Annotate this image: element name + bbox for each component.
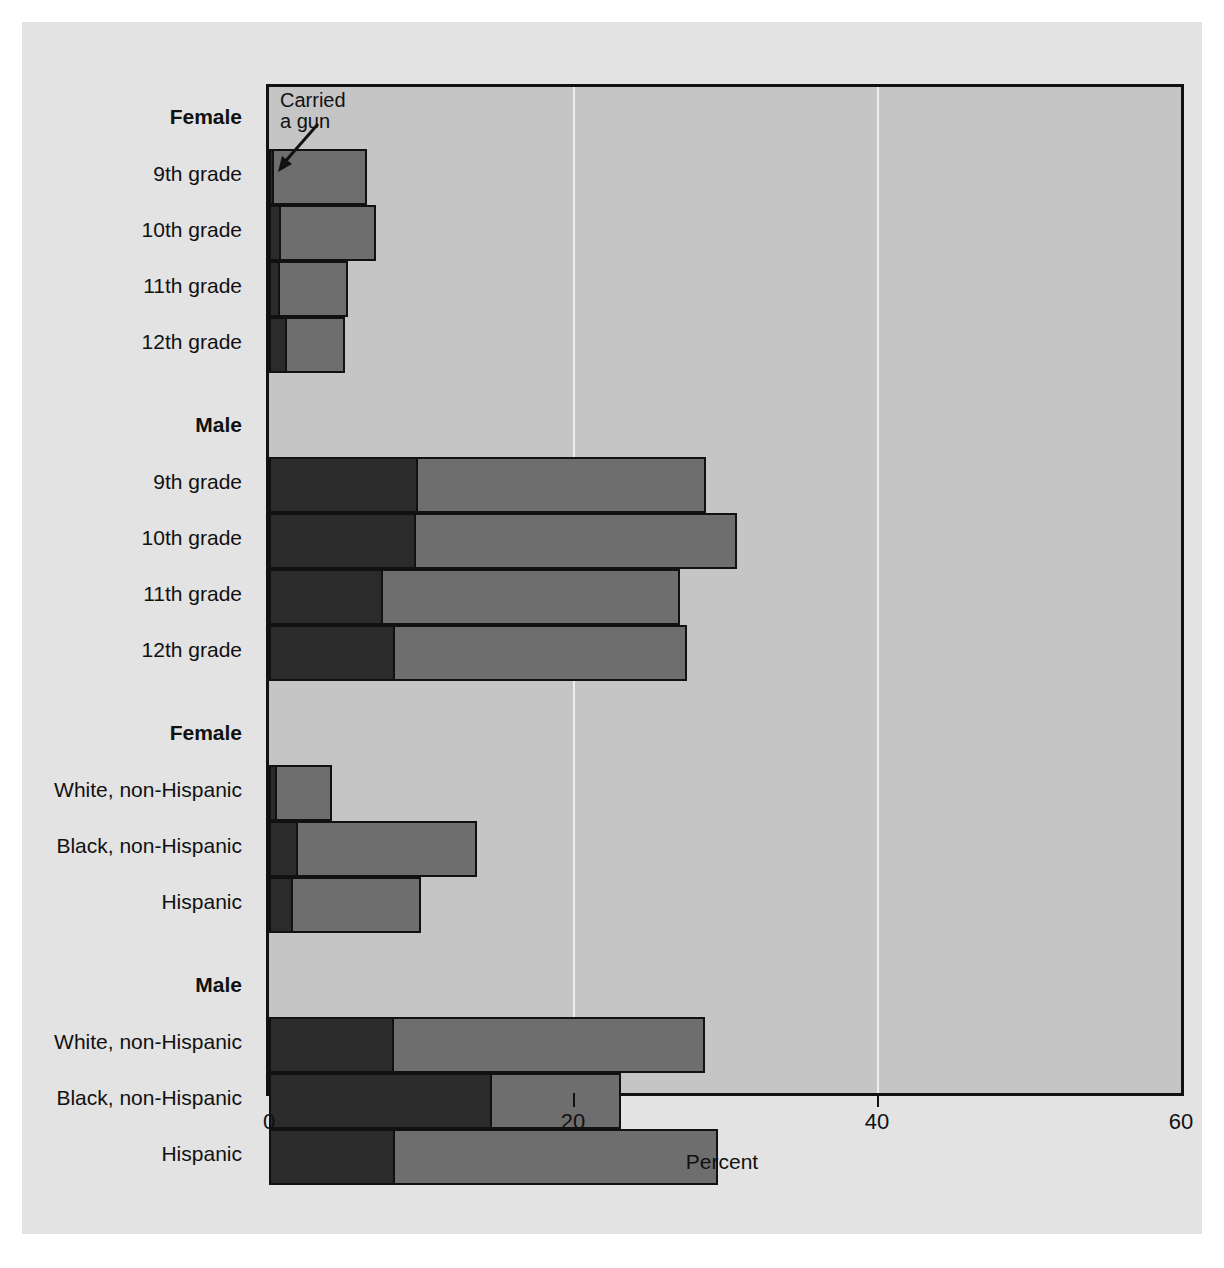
carried-a-gun-annotation-label: Carried a gun [280,90,430,132]
figure-container: Female9th grade10th grade11th grade12th … [0,0,1224,1268]
bar-segment-carried-weapon [275,765,333,821]
category-label: White, non-Hispanic [0,1030,242,1054]
bar-row[interactable] [269,765,332,821]
bar-segment-carried-weapon [393,625,686,681]
x-tick-label-60: 60 [1169,1109,1193,1135]
category-label: Black, non-Hispanic [0,834,242,858]
bar-segment-carried-weapon [272,149,368,205]
category-label-column: Female9th grade10th grade11th grade12th … [22,84,254,1090]
bar-segment-carried-gun [269,625,395,681]
category-label: 9th grade [0,470,242,494]
category-label: 11th grade [0,274,242,298]
bar-row[interactable] [269,513,737,569]
bar-segment-carried-gun [269,1017,394,1073]
x-axis-title: Percent [266,1150,1178,1174]
x-tick-40 [877,1093,879,1107]
bar-segment-carried-weapon [296,821,477,877]
bar-segment-carried-gun [269,877,293,933]
category-label: 12th grade [0,330,242,354]
bar-segment-carried-weapon [279,205,376,261]
group-heading-male-1: Male [0,413,242,437]
bar-row[interactable] [269,457,706,513]
group-heading-female-0: Female [0,105,242,129]
x-tick-20 [573,1093,575,1107]
bar-segment-carried-weapon [381,569,680,625]
bar-segment-carried-gun [269,457,418,513]
bar-segment-carried-weapon [392,1017,705,1073]
bar-row[interactable] [269,877,421,933]
bar-row[interactable] [269,205,376,261]
x-tick-label-20: 20 [561,1109,585,1135]
bar-row[interactable] [269,317,345,373]
bar-segment-carried-weapon [285,317,344,373]
bar-segment-carried-gun [269,821,298,877]
category-label: 11th grade [0,582,242,606]
bar-row[interactable] [269,1017,705,1073]
category-label: White, non-Hispanic [0,778,242,802]
bar-row[interactable] [269,569,680,625]
bar-series-layer [269,87,1181,1093]
category-label: 9th grade [0,162,242,186]
x-axis: 0204060 [266,1093,1184,1153]
bar-segment-carried-gun [269,513,416,569]
bar-row[interactable] [269,149,367,205]
bar-segment-carried-weapon [278,261,348,317]
bar-row[interactable] [269,821,477,877]
bar-row[interactable] [269,625,687,681]
bar-segment-carried-gun [269,569,383,625]
x-tick-label-40: 40 [865,1109,889,1135]
figure-title-fragment [20,0,720,4]
scanned-page-panel: Female9th grade10th grade11th grade12th … [22,22,1202,1234]
category-label: Hispanic [0,1142,242,1166]
bar-segment-carried-weapon [414,513,736,569]
category-label: 12th grade [0,638,242,662]
bar-segment-carried-weapon [416,457,706,513]
group-heading-male-3: Male [0,973,242,997]
bar-segment-carried-weapon [291,877,420,933]
category-label: Hispanic [0,890,242,914]
group-heading-female-2: Female [0,721,242,745]
bar-row[interactable] [269,261,348,317]
category-label: Black, non-Hispanic [0,1086,242,1110]
category-label: 10th grade [0,218,242,242]
x-tick-label-0: 0 [263,1109,275,1135]
category-label: 10th grade [0,526,242,550]
plot-area [266,84,1184,1096]
